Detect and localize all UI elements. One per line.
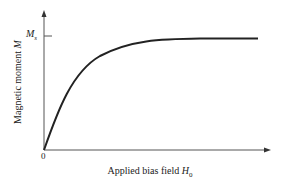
origin-label: 0 [41,151,46,161]
x-axis-label: Applied bias field H0 [108,165,193,179]
y-axis-arrow-icon [42,10,47,17]
ms-label: Ms [26,28,37,42]
x-axis-arrow-icon [264,148,271,153]
y-axis-label: Magnetic moment M [12,40,23,124]
magnetization-curve [44,39,258,151]
